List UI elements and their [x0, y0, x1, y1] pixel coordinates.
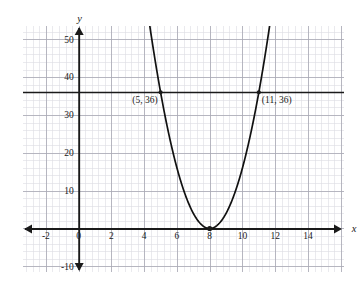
x-tick-label-10: 10 [238, 231, 248, 241]
y-tick-label-10: 10 [64, 186, 74, 196]
x-axis-name-label: x [351, 223, 357, 234]
y-tick-label-30: 30 [64, 110, 74, 120]
y-tick-label-50: 50 [64, 35, 74, 45]
point-annotation-1: (11, 36) [262, 95, 292, 106]
x-tick-label-neg2: -2 [42, 231, 50, 241]
data-point-marker [257, 90, 261, 94]
x-tick-label-6: 6 [175, 231, 180, 241]
x-tick-label-14: 14 [303, 231, 313, 241]
coordinate-plane: -2024681012145040302010-10 (5, 36)(11, 3… [0, 0, 361, 283]
parabola-curve [147, 5, 273, 228]
y-tick-label-neg10: -10 [61, 262, 74, 272]
y-tick-label-20: 20 [64, 148, 74, 158]
data-point-marker [207, 226, 212, 231]
y-axis-up-arrowhead [75, 27, 84, 35]
y-axis-name-label: y [76, 13, 82, 24]
graph-figure: -2024681012145040302010-10 (5, 36)(11, 3… [0, 0, 361, 283]
x-tick-label-12: 12 [270, 231, 280, 241]
x-tick-label-4: 4 [142, 231, 147, 241]
x-tick-label-0: 0 [76, 231, 81, 241]
x-tick-label-8: 8 [207, 231, 212, 241]
y-tick-label-40: 40 [64, 72, 74, 82]
parabola-path [147, 5, 273, 228]
x-axis-right-arrowhead [334, 224, 342, 233]
point-annotation-0: (5, 36) [132, 95, 157, 106]
x-axis-left-arrowhead [24, 224, 32, 233]
data-point-marker [158, 90, 162, 94]
x-tick-label-2: 2 [109, 231, 114, 241]
y-axis-down-arrowhead [75, 263, 84, 271]
